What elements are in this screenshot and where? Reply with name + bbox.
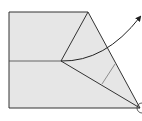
origami-diagram bbox=[0, 0, 142, 121]
